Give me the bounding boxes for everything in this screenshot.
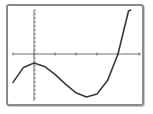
- function-graph: [0, 0, 153, 114]
- axes: [13, 10, 141, 101]
